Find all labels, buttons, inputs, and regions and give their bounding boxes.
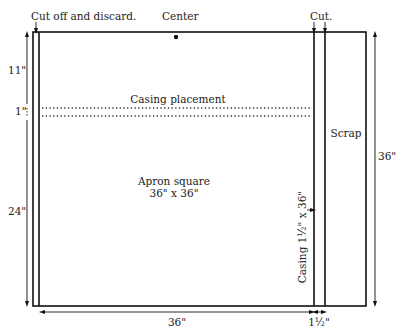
casing-placement-label: Casing placement (130, 93, 226, 105)
cutting-diagram: Cut off and discard. Center Cut. Casing … (0, 0, 401, 332)
apron-label-line2: 36" x 36" (150, 187, 199, 199)
casing-strip-label: Casing 1½" x 36" (296, 191, 308, 283)
dim-casing-width: 1½" (308, 316, 330, 328)
dim-top-offset: 11" (8, 64, 26, 76)
scrap-label: Scrap (330, 127, 361, 139)
dim-casing-gap: 1" (15, 105, 27, 117)
dim-lower-height: 24" (8, 205, 26, 217)
center-label: Center (162, 10, 199, 22)
dim-total-height: 36" (378, 150, 396, 162)
center-dot (174, 35, 178, 39)
cut-label: Cut. (310, 10, 332, 22)
fabric-outline (33, 32, 366, 306)
cut-off-label: Cut off and discard. (31, 10, 136, 22)
dim-apron-width: 36" (168, 316, 186, 328)
apron-label-line1: Apron square (137, 175, 210, 187)
